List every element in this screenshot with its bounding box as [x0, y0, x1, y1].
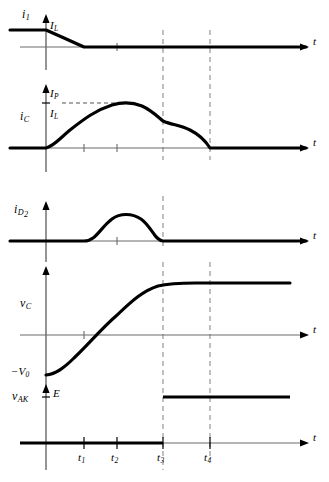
dashed-guide-lines: [163, 30, 210, 470]
signal-label-i1: i1: [22, 8, 30, 22]
amplitude-label-IL-i1: IL: [50, 20, 58, 33]
tick-label-t4: t4: [204, 452, 211, 465]
panel-i1: [10, 30, 309, 51]
axis-arrow-vAK: [42, 384, 49, 393]
time-axis-label-iD2: t: [313, 230, 316, 241]
axis-arrow-iD2: [42, 201, 49, 210]
amplitude-label-IL-iC: IL: [50, 108, 58, 121]
waveform-svg: [0, 0, 329, 482]
signal-label-iC: iC: [20, 110, 29, 124]
time-axis-label-i1: t: [313, 36, 316, 47]
time-axis-arrow-vC: [300, 331, 309, 338]
waveform-figure: i1 iC iD2 vC vAK IL IP IL −V0 E t t t t …: [0, 0, 329, 482]
panel-time-axis: [20, 437, 309, 449]
amplitude-label-E: E: [53, 388, 60, 399]
signal-label-vAK: vAK: [12, 390, 28, 404]
time-axis-arrow-bottom: [300, 439, 309, 446]
time-axis-label-bottom: t: [313, 432, 316, 443]
signal-label-iD2: iD2: [14, 203, 28, 219]
time-axis-label-iC: t: [313, 137, 316, 148]
signal-label-vC: vC: [20, 297, 31, 311]
tick-label-t1: t1: [78, 452, 85, 465]
trace-vC: [46, 283, 290, 375]
tick-label-t3: t3: [157, 452, 164, 465]
panel-vC: [20, 283, 309, 375]
amplitude-label-neg-V0: −V0: [11, 366, 29, 379]
trace-iD2: [10, 215, 306, 242]
axis-arrow-i1: [42, 14, 49, 23]
time-axis-label-vC: t: [313, 324, 316, 335]
axis-arrow-iC: [42, 84, 49, 93]
tick-label-t2: t2: [111, 452, 118, 465]
axis-arrow-vC: [42, 266, 49, 275]
panel-iD2: [10, 215, 309, 246]
amplitude-label-Ip: IP: [50, 88, 59, 101]
